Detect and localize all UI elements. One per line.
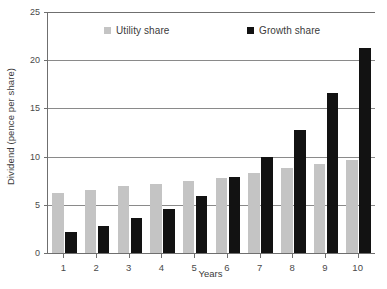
x-tick-mark-1 bbox=[63, 254, 64, 258]
y-tick-label-0: 0 bbox=[14, 248, 40, 258]
bar-group-year-8 bbox=[281, 12, 306, 253]
bar-group-year-10 bbox=[346, 12, 371, 253]
legend-item-growth-share: Growth share bbox=[247, 23, 320, 37]
bar-utility-share-year-6 bbox=[216, 178, 228, 253]
bar-growth-share-year-2 bbox=[98, 226, 110, 253]
plot-area: 0510152025 bbox=[47, 12, 375, 254]
x-tick-mark-4 bbox=[161, 254, 162, 258]
bar-growth-share-year-10 bbox=[359, 48, 371, 253]
y-tick-label-25: 25 bbox=[14, 7, 40, 17]
y-axis-title: Dividend (pence per share) bbox=[4, 0, 18, 253]
y-tick-label-15: 15 bbox=[14, 103, 40, 113]
bar-growth-share-year-3 bbox=[131, 218, 143, 253]
bar-growth-share-year-6 bbox=[229, 177, 241, 253]
bar-group-year-2 bbox=[85, 12, 110, 253]
bar-utility-share-year-7 bbox=[248, 173, 260, 253]
legend-swatch-utility-share bbox=[104, 27, 111, 34]
y-tick-label-5: 5 bbox=[14, 200, 40, 210]
bar-group-year-5 bbox=[183, 12, 208, 253]
x-tick-mark-6 bbox=[227, 254, 228, 258]
x-tick-mark-2 bbox=[96, 254, 97, 258]
bar-growth-share-year-1 bbox=[65, 232, 77, 253]
bar-group-year-1 bbox=[52, 12, 77, 253]
bar-group-year-6 bbox=[216, 12, 241, 253]
x-tick-mark-10 bbox=[358, 254, 359, 258]
bar-group-year-9 bbox=[314, 12, 339, 253]
bar-growth-share-year-9 bbox=[327, 93, 339, 253]
bar-utility-share-year-3 bbox=[118, 186, 130, 253]
legend-swatch-growth-share bbox=[247, 27, 254, 34]
chart-legend: Utility share Growth share bbox=[104, 23, 354, 37]
bar-growth-share-year-4 bbox=[163, 209, 175, 253]
bar-growth-share-year-8 bbox=[294, 130, 306, 253]
bar-utility-share-year-8 bbox=[281, 168, 293, 253]
x-tick-mark-3 bbox=[129, 254, 130, 258]
bar-group-year-3 bbox=[118, 12, 143, 253]
bar-utility-share-year-2 bbox=[85, 190, 97, 253]
x-axis-title: Years bbox=[47, 268, 374, 279]
bar-utility-share-year-1 bbox=[52, 193, 64, 253]
legend-label-utility-share: Utility share bbox=[116, 25, 170, 36]
bars-layer bbox=[48, 12, 375, 253]
dividend-bar-chart: Dividend (pence per share) 0510152025 12… bbox=[0, 0, 387, 289]
x-tick-mark-5 bbox=[194, 254, 195, 258]
bar-utility-share-year-5 bbox=[183, 181, 195, 253]
legend-item-utility-share: Utility share bbox=[104, 23, 170, 37]
bar-utility-share-year-10 bbox=[346, 160, 358, 253]
bar-group-year-7 bbox=[248, 12, 273, 253]
bar-utility-share-year-4 bbox=[150, 184, 162, 253]
y-tick-label-10: 10 bbox=[14, 152, 40, 162]
bar-growth-share-year-7 bbox=[261, 157, 273, 253]
x-tick-mark-9 bbox=[325, 254, 326, 258]
x-tick-mark-8 bbox=[292, 254, 293, 258]
bar-utility-share-year-9 bbox=[314, 164, 326, 253]
y-tick-label-20: 20 bbox=[14, 55, 40, 65]
bar-group-year-4 bbox=[150, 12, 175, 253]
bar-growth-share-year-5 bbox=[196, 196, 208, 253]
x-tick-mark-7 bbox=[260, 254, 261, 258]
legend-label-growth-share: Growth share bbox=[259, 25, 320, 36]
